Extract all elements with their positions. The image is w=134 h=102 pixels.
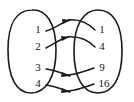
arrow-1-to-1-tail bbox=[68, 20, 95, 30]
codomain-element-9: 9 bbox=[99, 61, 105, 73]
function-mapping-diagram: 1 2 3 4 1 4 9 16 bbox=[0, 0, 134, 102]
diagram-canvas: 1 2 3 4 1 4 9 16 bbox=[0, 0, 134, 102]
domain-ellipse bbox=[8, 10, 56, 93]
domain-element-2: 2 bbox=[35, 40, 41, 52]
arrow-3-to-9-tail bbox=[68, 68, 94, 75]
domain-element-1: 1 bbox=[35, 23, 41, 35]
codomain-element-1: 1 bbox=[99, 23, 105, 35]
codomain-element-4: 4 bbox=[99, 40, 105, 52]
domain-element-3: 3 bbox=[35, 61, 41, 73]
arrow-4-to-16-tail bbox=[68, 84, 94, 91]
arrow-2-to-4-tail bbox=[67, 37, 95, 47]
domain-element-4: 4 bbox=[35, 77, 41, 89]
codomain-element-16: 16 bbox=[99, 77, 111, 89]
